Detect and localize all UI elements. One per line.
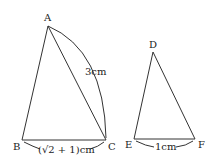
- side-ac-length: 3cm: [85, 67, 106, 77]
- triangle-abc: [22, 26, 106, 140]
- vertex-label-c: C: [108, 142, 116, 152]
- vertex-label-d: D: [149, 40, 157, 50]
- side-ef-length: 1cm: [155, 142, 176, 152]
- brace-ef-left: [136, 141, 154, 147]
- brace-ef-right: [176, 141, 193, 147]
- geometry-figure: A B C 3cm (√2 + 1)cm D E F 1cm: [0, 0, 217, 165]
- triangle-def: [134, 52, 195, 139]
- vertex-label-b: B: [13, 142, 20, 152]
- vertex-label-f: F: [198, 140, 205, 150]
- vertex-label-e: E: [125, 140, 132, 150]
- vertex-label-a: A: [44, 13, 51, 23]
- side-bc-length: (√2 + 1)cm: [38, 145, 95, 155]
